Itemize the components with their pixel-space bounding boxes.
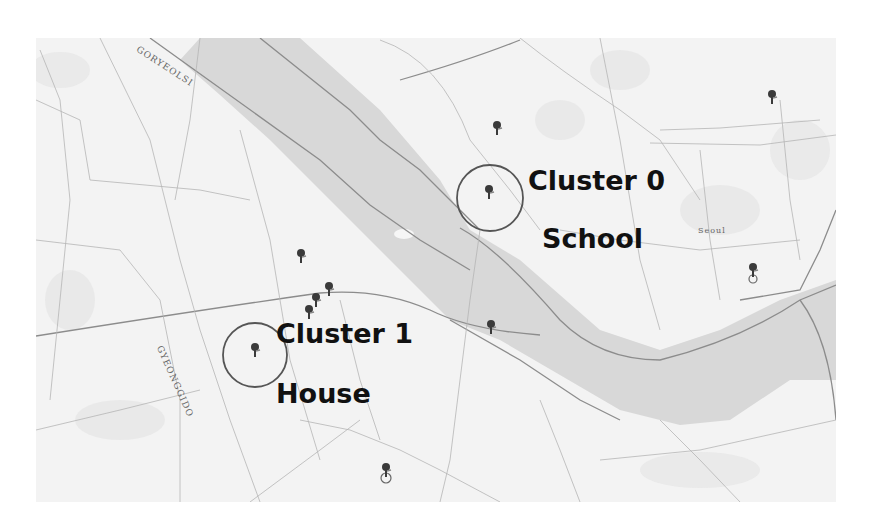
map-pin[interactable]: [491, 120, 503, 138]
cluster-1-subtitle: House: [276, 380, 371, 407]
map-pin-icon: [747, 262, 759, 280]
cluster-0-title: Cluster 0: [528, 167, 665, 194]
map-pin[interactable]: [249, 342, 261, 360]
map-pin-icon: [295, 248, 307, 266]
map-canvas[interactable]: GORYEOLSI GYEONGGIDO Seoul Cluster 0 Sch…: [36, 38, 836, 502]
map-pin[interactable]: [483, 184, 495, 202]
map-pin-icon: [249, 342, 261, 360]
map-pin-icon: [483, 184, 495, 202]
place-label-seoul: Seoul: [698, 226, 726, 235]
map-pin[interactable]: [766, 89, 778, 107]
map-pin[interactable]: [380, 462, 392, 480]
cluster-1-title: Cluster 1: [276, 320, 413, 347]
cluster-0-subtitle: School: [542, 225, 643, 252]
map-pin[interactable]: [295, 248, 307, 266]
map-pin-icon: [380, 462, 392, 480]
map-pin[interactable]: [485, 319, 497, 337]
map-pin-icon: [491, 120, 503, 138]
map-pin-icon: [766, 89, 778, 107]
map-pin-icon: [485, 319, 497, 337]
map-pin-icon: [323, 281, 335, 299]
map-pin[interactable]: [323, 281, 335, 299]
map-base-layer: [36, 38, 836, 502]
map-pin[interactable]: [747, 262, 759, 280]
